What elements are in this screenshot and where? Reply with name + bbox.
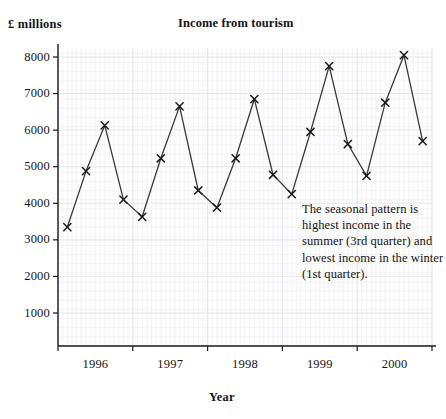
y-tick-label: 2000 (4, 270, 50, 283)
x-tick-label: 2000 (358, 358, 432, 371)
tourism-income-chart: £ millions Income from tourism 100020003… (0, 0, 446, 419)
seasonal-pattern-annotation: The seasonal pattern is highest income i… (302, 201, 444, 282)
x-tick-label: 1996 (58, 358, 132, 371)
y-tick-label: 3000 (4, 233, 50, 246)
x-tick-label: 1999 (283, 358, 357, 371)
x-tick-label: 1998 (208, 358, 282, 371)
x-tick-label: 1997 (133, 358, 207, 371)
x-axis-title: Year (209, 390, 235, 405)
y-tick-label: 7000 (4, 87, 50, 100)
y-tick-label: 5000 (4, 160, 50, 173)
y-tick-label: 6000 (4, 124, 50, 137)
y-tick-label: 8000 (4, 51, 50, 64)
y-tick-label: 1000 (4, 307, 50, 320)
y-tick-label: 4000 (4, 197, 50, 210)
